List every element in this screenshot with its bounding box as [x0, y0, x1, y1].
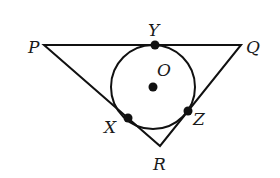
label-q: Q: [246, 37, 260, 57]
label-p: P: [27, 37, 40, 57]
center-o: [149, 83, 158, 92]
geometry-diagram: P Q R Y O X Z: [0, 0, 280, 178]
label-o: O: [157, 60, 171, 80]
label-r: R: [152, 154, 166, 174]
label-z: Z: [192, 109, 206, 129]
point-z: [184, 107, 193, 116]
point-y: [151, 41, 160, 50]
point-x: [124, 114, 133, 123]
triangle-pqr: [44, 45, 241, 146]
label-x: X: [102, 117, 117, 137]
label-y: Y: [148, 20, 161, 40]
